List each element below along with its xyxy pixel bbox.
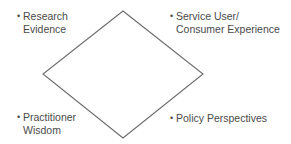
label-line: Research <box>23 10 68 23</box>
label-research-evidence: • Research Evidence <box>23 10 68 36</box>
label-practitioner-wisdom: • Practitioner Wisdom <box>23 111 76 137</box>
bullet-icon: • <box>17 111 20 124</box>
label-line: Practitioner <box>23 111 76 124</box>
label-line: Evidence <box>23 23 68 36</box>
bullet-icon: • <box>170 112 173 125</box>
label-line: Policy Perspectives <box>176 112 267 125</box>
label-line: Consumer Experience <box>176 23 280 36</box>
label-line: Wisdom <box>23 124 76 137</box>
evidence-diamond-diagram: • Research Evidence • Service User/ Cons… <box>0 0 291 144</box>
label-service-user-experience: • Service User/ Consumer Experience <box>176 10 280 36</box>
bullet-icon: • <box>17 10 20 23</box>
bullet-icon: • <box>170 10 173 23</box>
label-line: Service User/ <box>176 10 280 23</box>
label-policy-perspectives: • Policy Perspectives <box>176 112 267 125</box>
